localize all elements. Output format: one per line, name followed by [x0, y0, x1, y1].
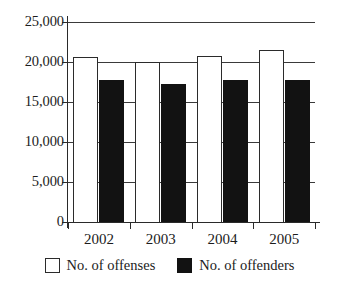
legend-item: No. of offenders — [177, 258, 294, 273]
x-axis-tick-label: 2004 — [194, 231, 250, 248]
y-axis-tick-label: 5,000 — [4, 174, 64, 188]
x-axis-tick-mark — [253, 222, 254, 229]
x-axis-tick-mark — [192, 222, 193, 229]
y-axis-tick-mark — [62, 102, 68, 103]
bar-offenders — [99, 80, 124, 222]
legend-label: No. of offenses — [67, 258, 156, 273]
y-axis-tick-mark — [62, 22, 68, 23]
y-axis-tick-mark — [62, 182, 68, 183]
bar-chart: 25,00020,00015,00010,0005,0000 No. of of… — [0, 0, 339, 299]
gridline — [68, 22, 315, 23]
x-axis-tick-mark — [68, 222, 69, 229]
bar-offenses — [135, 62, 160, 222]
bar-offenses — [73, 57, 98, 222]
legend-item: No. of offenses — [45, 258, 156, 273]
y-axis-tick-mark — [62, 142, 68, 143]
x-axis-tick-mark — [315, 222, 316, 229]
x-axis-tick-mark — [130, 222, 131, 229]
y-axis-tick-label: 20,000 — [4, 54, 64, 68]
legend-label: No. of offenders — [199, 258, 294, 273]
bar-offenses — [259, 50, 284, 222]
plot-area — [68, 22, 315, 222]
y-axis-tick-label: 0 — [4, 214, 64, 228]
x-axis-tick-label: 2003 — [133, 231, 189, 248]
x-axis-tick-label: 2002 — [71, 231, 127, 248]
x-axis-tick-label: 2005 — [256, 231, 312, 248]
y-axis-labels: 25,00020,00015,00010,0005,0000 — [0, 0, 64, 299]
bar-offenders — [161, 84, 186, 222]
black-square-swatch — [177, 258, 192, 273]
white-square-swatch — [45, 258, 60, 273]
y-axis-tick-label: 15,000 — [4, 94, 64, 108]
y-axis-tick-mark — [62, 62, 68, 63]
y-axis-tick-label: 10,000 — [4, 134, 64, 148]
bar-offenders — [223, 80, 248, 222]
chart-legend: No. of offensesNo. of offenders — [0, 258, 339, 273]
y-axis-tick-label: 25,000 — [4, 14, 64, 28]
bar-offenses — [197, 56, 222, 222]
bar-offenders — [285, 80, 310, 222]
